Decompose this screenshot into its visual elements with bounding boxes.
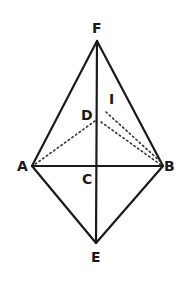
label-D: D <box>81 107 93 123</box>
segment-FE <box>96 41 97 243</box>
label-C: C <box>82 171 92 187</box>
geometry-diagram: F A B C D I E <box>0 0 185 284</box>
segment-FA <box>32 41 97 166</box>
label-B: B <box>164 158 175 174</box>
label-I: I <box>109 91 114 107</box>
segment-IB <box>106 112 162 163</box>
segment-FB <box>97 41 163 166</box>
label-F: F <box>92 20 102 36</box>
segment-BE <box>96 166 163 243</box>
label-A: A <box>17 158 28 174</box>
label-E: E <box>91 249 101 265</box>
solid-lines <box>32 41 163 243</box>
dotted-lines <box>34 112 162 165</box>
